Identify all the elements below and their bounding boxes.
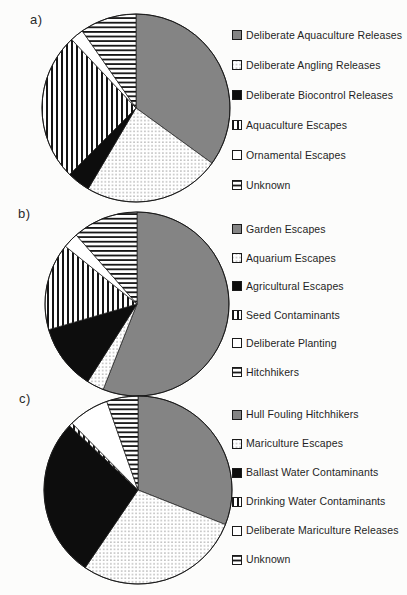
legend-swatch-icon bbox=[232, 90, 242, 100]
legend-item: Ballast Water Contaminants bbox=[232, 458, 404, 487]
legend-swatch-icon bbox=[232, 150, 242, 160]
legend-swatch-icon bbox=[232, 338, 242, 348]
legend-swatch-icon bbox=[232, 526, 242, 536]
legend-item: Garden Escapes bbox=[232, 215, 404, 244]
legend-label: Deliberate Mariculture Releases bbox=[246, 525, 399, 536]
legend-label: Unknown bbox=[246, 554, 290, 565]
legend-label: Deliberate Biocontrol Releases bbox=[246, 90, 393, 101]
legend-label: Agricultural Escapes bbox=[246, 281, 344, 292]
figure-canvas: a) b) c) Deliberate Aquaculture Releases… bbox=[0, 0, 407, 595]
legend-swatch-icon bbox=[232, 253, 242, 263]
legend-item: Unknown bbox=[232, 170, 404, 200]
legend-c: Hull Fouling Hitchhikers Mariculture Esc… bbox=[232, 400, 404, 574]
legend-swatch-icon bbox=[232, 410, 242, 420]
legend-item: Deliberate Planting bbox=[232, 329, 404, 358]
legend-label: Garden Escapes bbox=[246, 224, 326, 235]
legend-swatch-icon bbox=[232, 367, 242, 377]
pie-chart-c bbox=[38, 390, 238, 590]
legend-item: Deliberate Mariculture Releases bbox=[232, 516, 404, 545]
legend-label: Ornamental Escapes bbox=[246, 150, 346, 161]
legend-item: Deliberate Aquaculture Releases bbox=[232, 20, 404, 50]
legend-a: Deliberate Aquaculture Releases Delibera… bbox=[232, 20, 404, 200]
legend-swatch-icon bbox=[232, 310, 242, 320]
legend-item: Deliberate Angling Releases bbox=[232, 50, 404, 80]
panel-label-c: c) bbox=[19, 391, 31, 406]
legend-swatch-icon bbox=[232, 555, 242, 565]
legend-swatch-icon bbox=[232, 224, 242, 234]
legend-label: Unknown bbox=[246, 180, 290, 191]
legend-item: Seed Contaminants bbox=[232, 301, 404, 330]
legend-label: Aquaculture Escapes bbox=[246, 120, 347, 131]
legend-label: Hull Fouling Hitchhikers bbox=[246, 409, 359, 420]
legend-item: Agricultural Escapes bbox=[232, 272, 404, 301]
legend-item: Mariculture Escapes bbox=[232, 429, 404, 458]
legend-label: Ballast Water Contaminants bbox=[246, 467, 378, 478]
legend-swatch-icon bbox=[232, 60, 242, 70]
legend-label: Drinking Water Contaminants bbox=[246, 496, 385, 507]
legend-item: Hitchhikers bbox=[232, 358, 404, 387]
legend-item: Aquarium Escapes bbox=[232, 244, 404, 273]
legend-b: Garden Escapes Aquarium Escapes Agricult… bbox=[232, 215, 404, 386]
legend-label: Deliberate Planting bbox=[246, 338, 337, 349]
legend-swatch-icon bbox=[232, 180, 242, 190]
legend-label: Deliberate Aquaculture Releases bbox=[246, 30, 402, 41]
legend-label: Seed Contaminants bbox=[246, 310, 340, 321]
legend-swatch-icon bbox=[232, 120, 242, 130]
legend-item: Ornamental Escapes bbox=[232, 140, 404, 170]
legend-swatch-icon bbox=[232, 281, 242, 291]
legend-item: Deliberate Biocontrol Releases bbox=[232, 80, 404, 110]
legend-item: Aquaculture Escapes bbox=[232, 110, 404, 140]
legend-swatch-icon bbox=[232, 468, 242, 478]
legend-item: Hull Fouling Hitchhikers bbox=[232, 400, 404, 429]
legend-item: Unknown bbox=[232, 545, 404, 574]
pie-chart-a bbox=[36, 8, 236, 208]
legend-label: Hitchhikers bbox=[246, 367, 299, 378]
legend-label: Mariculture Escapes bbox=[246, 438, 343, 449]
legend-swatch-icon bbox=[232, 30, 242, 40]
legend-swatch-icon bbox=[232, 439, 242, 449]
legend-label: Deliberate Angling Releases bbox=[246, 60, 381, 71]
panel-label-b: b) bbox=[18, 206, 31, 221]
pie-chart-b bbox=[37, 204, 237, 404]
legend-item: Drinking Water Contaminants bbox=[232, 487, 404, 516]
legend-swatch-icon bbox=[232, 497, 242, 507]
legend-label: Aquarium Escapes bbox=[246, 253, 336, 264]
